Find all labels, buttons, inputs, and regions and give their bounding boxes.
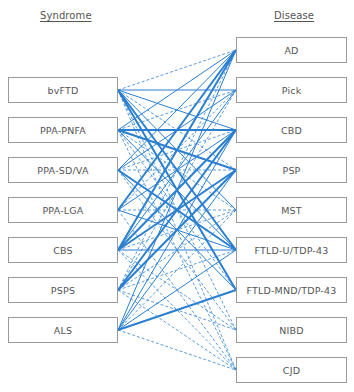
edge-dashed (118, 330, 236, 370)
syndrome-box-bvftd-label: bvFTD (47, 85, 78, 96)
disease-box-psp: PSP (236, 157, 347, 183)
edge-dashed (118, 50, 236, 90)
disease-box-ad: AD (236, 37, 347, 63)
disease-box-ad-label: AD (284, 45, 298, 56)
disease-box-mst: MST (236, 197, 347, 223)
syndrome-box-ppa-sd-va-label: PPA-SD/VA (37, 165, 88, 176)
syndrome-box-ppa-lga-label: PPA-LGA (42, 205, 83, 216)
syndrome-box-ppa-pnfa: PPA-PNFA (8, 117, 118, 143)
edge-solid (118, 130, 236, 330)
disease-box-ftld-mnd-tdp-43-label: FTLD-MND/TDP-43 (246, 285, 336, 296)
disease-box-ftld-mnd-tdp-43: FTLD-MND/TDP-43 (236, 277, 347, 303)
syndrome-box-cbs-label: CBS (53, 245, 73, 256)
disease-box-cjd: CJD (236, 357, 347, 383)
syndrome-box-bvftd: bvFTD (8, 77, 118, 103)
edge-dashed (118, 290, 236, 370)
edge-thick (118, 50, 236, 250)
syndrome-box-psps-label: PSPS (51, 285, 75, 296)
syndrome-box-ppa-pnfa-label: PPA-PNFA (40, 125, 86, 136)
disease-box-psp-label: PSP (282, 165, 300, 176)
syndrome-box-psps: PSPS (8, 277, 118, 303)
disease-box-cbd: CBD (236, 117, 347, 143)
syndrome-box-als: ALS (8, 317, 118, 343)
syndrome-box-ppa-lga: PPA-LGA (8, 197, 118, 223)
syndrome-box-als-label: ALS (54, 325, 72, 336)
disease-box-pick-label: Pick (282, 85, 302, 96)
syndrome-box-ppa-sd-va: PPA-SD/VA (8, 157, 118, 183)
syndrome-box-cbs: CBS (8, 237, 118, 263)
disease-box-ftld-u-tdp-43: FTLD-U/TDP-43 (236, 237, 347, 263)
disease-box-pick: Pick (236, 77, 347, 103)
disease-box-nibd: NIBD (236, 317, 347, 343)
edge-dashed (118, 250, 236, 290)
disease-box-ftld-u-tdp-43-label: FTLD-U/TDP-43 (254, 245, 328, 256)
edge-solid (118, 50, 236, 330)
disease-box-cjd-label: CJD (283, 365, 300, 376)
disease-box-nibd-label: NIBD (279, 325, 304, 336)
edge-solid (118, 50, 236, 170)
disease-box-cbd-label: CBD (281, 125, 302, 136)
disease-box-mst-label: MST (281, 205, 302, 216)
